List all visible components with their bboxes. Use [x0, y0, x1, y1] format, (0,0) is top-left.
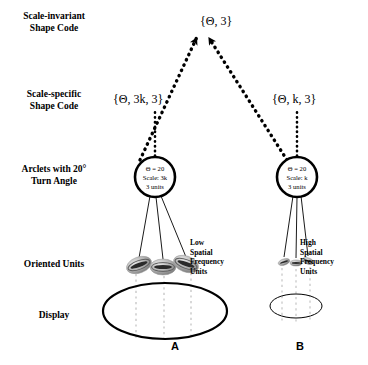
row-label-line2: Shape Code: [2, 22, 106, 34]
arclet-circle-left: Θ = 20 Scale: 3k 3 units: [135, 157, 175, 197]
row-label-line2: Turn Angle: [2, 175, 106, 187]
oriented-unit-right-1: [277, 257, 290, 267]
figure-canvas: Θ = 20 Scale: 3k 3 units: [0, 0, 368, 365]
high-spatial-frequency-label: High Spatial Frequency Units: [300, 238, 334, 276]
row-label-line1: Arclets with 20°: [2, 163, 106, 175]
freq-line: Spatial: [300, 248, 334, 258]
oriented-unit-left-2: [150, 259, 176, 275]
freq-line: Frequency: [300, 257, 334, 267]
row-label-scale-specific: Scale-specific Shape Code: [2, 88, 106, 112]
row-label-line1: Scale-invariant: [2, 10, 106, 22]
panel-letter-a: A: [165, 340, 185, 352]
row-label-oriented-units: Oriented Units: [2, 258, 106, 270]
arclet-left-theta: Θ = 20: [146, 165, 165, 172]
freq-line: Low: [190, 238, 224, 248]
scale-specific-code-right: {Θ, k, 3}: [272, 92, 316, 107]
freq-line: Units: [190, 267, 224, 277]
row-label-line2: Shape Code: [2, 100, 106, 112]
arclet-right-scale: Scale: k: [286, 174, 308, 181]
row-label-arclets: Arclets with 20° Turn Angle: [2, 163, 106, 187]
low-spatial-frequency-label: Low Spatial Frequency Units: [190, 238, 224, 276]
row-label-display: Display: [2, 309, 106, 321]
scale-invariant-code: {Θ, 3}: [200, 14, 232, 29]
freq-line: Units: [300, 267, 334, 277]
arclet-right-units: 3 units: [288, 183, 306, 190]
row-label-line1: Scale-specific: [2, 88, 106, 100]
arclet-left-scale: Scale: 3k: [143, 174, 168, 181]
freq-line: High: [300, 238, 334, 248]
oriented-unit-left-1: [124, 253, 154, 277]
panel-letter-b: B: [290, 340, 310, 352]
arclet-right-theta: Θ = 20: [288, 165, 307, 172]
row-label-line1: Oriented Units: [2, 258, 106, 270]
scale-specific-code-left: {Θ, 3k, 3}: [113, 92, 163, 107]
display-a-ellipse: [103, 283, 227, 339]
freq-line: Frequency: [190, 257, 224, 267]
row-label-scale-invariant: Scale-invariant Shape Code: [2, 10, 106, 34]
arclet-circle-right: Θ = 20 Scale: k 3 units: [277, 157, 317, 197]
freq-line: Spatial: [190, 248, 224, 258]
row-label-line1: Display: [2, 309, 106, 321]
fan-lines-left: [139, 196, 186, 259]
arclet-left-units: 3 units: [146, 183, 164, 190]
